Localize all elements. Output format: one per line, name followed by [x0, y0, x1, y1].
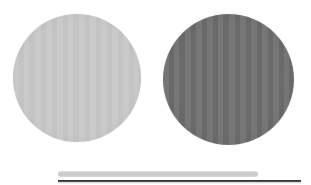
upper-scale-bar: [58, 171, 258, 177]
left-disc: [13, 14, 141, 142]
image-canvas: [0, 0, 311, 185]
right-disc: [163, 14, 294, 145]
lower-scale-bar-shadow: [58, 182, 301, 184]
